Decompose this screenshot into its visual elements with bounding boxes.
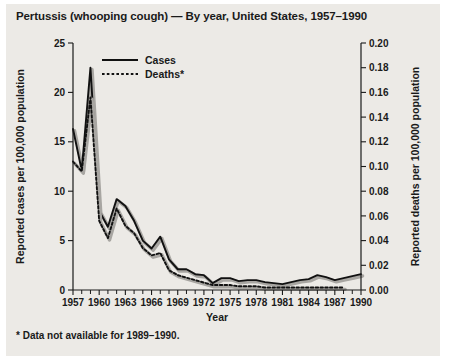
x-axis-tick-label: 1963 bbox=[114, 297, 137, 308]
legend-item-deaths: Deaths* bbox=[102, 68, 185, 80]
x-axis-tick-label: 1975 bbox=[219, 297, 242, 308]
right-axis-tick-label: 0.18 bbox=[369, 62, 389, 73]
right-axis-tick-label: 0.08 bbox=[369, 186, 389, 197]
x-axis-tick-label: 1990 bbox=[350, 297, 373, 308]
right-axis-tick-label: 0.04 bbox=[369, 235, 389, 246]
left-axis-tick-label: 0 bbox=[59, 285, 65, 296]
right-axis-title: Reported deaths per 100,000 population bbox=[409, 67, 421, 267]
x-axis-tick-label: 1981 bbox=[271, 297, 294, 308]
x-axis-tick-label: 1969 bbox=[167, 297, 190, 308]
right-axis-tick-label: 0.06 bbox=[369, 211, 389, 222]
legend-label: Deaths* bbox=[145, 68, 185, 80]
x-axis-tick-label: 1987 bbox=[324, 297, 347, 308]
right-axis-tick-label: 0.00 bbox=[369, 285, 389, 296]
series-cases bbox=[73, 68, 363, 286]
chart-figure: Pertussis (whooping cough) — By year, Un… bbox=[0, 0, 450, 362]
x-axis-tick-label: 1957 bbox=[62, 297, 85, 308]
right-axis-tick-label: 0.16 bbox=[369, 87, 389, 98]
legend-label: Cases bbox=[145, 54, 176, 66]
series-deaths bbox=[73, 97, 345, 289]
x-axis-tick-label: 1966 bbox=[140, 297, 163, 308]
x-axis-tick-label: 1972 bbox=[193, 297, 216, 308]
series-shadow bbox=[75, 70, 363, 286]
x-axis-tick-label: 1978 bbox=[245, 297, 268, 308]
right-axis-tick-label: 0.02 bbox=[369, 260, 389, 271]
axes-layer bbox=[68, 43, 366, 295]
series-layer bbox=[73, 68, 363, 290]
left-axis-tick-label: 25 bbox=[54, 38, 66, 49]
right-axis-tick-label: 0.12 bbox=[369, 136, 389, 147]
right-axis-tick-label: 0.20 bbox=[369, 38, 389, 49]
x-axis-tick-label: 1960 bbox=[88, 297, 111, 308]
series-line bbox=[73, 68, 361, 284]
x-axis-title: Year bbox=[206, 311, 228, 323]
legend-item-cases: Cases bbox=[102, 54, 176, 66]
left-axis-tick-label: 5 bbox=[59, 235, 65, 246]
right-axis-tick-label: 0.14 bbox=[369, 112, 389, 123]
left-axis-tick-label: 20 bbox=[54, 87, 66, 98]
right-axis-tick-label: 0.10 bbox=[369, 161, 389, 172]
left-axis-tick-label: 10 bbox=[54, 186, 66, 197]
x-axis-tick-label: 1984 bbox=[298, 297, 321, 308]
series-line bbox=[73, 97, 344, 287]
chart-plot-area: 05101520250.000.020.040.060.080.100.120.… bbox=[6, 4, 440, 356]
left-axis-title: Reported cases per 100,000 population bbox=[14, 69, 26, 264]
series-shadow bbox=[75, 99, 346, 289]
chart-panel: Pertussis (whooping cough) — By year, Un… bbox=[6, 4, 440, 356]
left-axis-tick-label: 15 bbox=[54, 136, 66, 147]
chart-legend: CasesDeaths* bbox=[102, 54, 185, 80]
